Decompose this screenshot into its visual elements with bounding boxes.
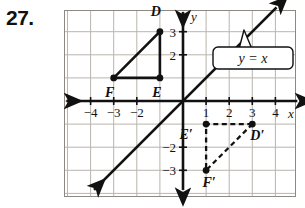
image-triangle-DEF-prime: D′E′F′	[178, 121, 264, 191]
vertex-label-F-prime: F′	[201, 175, 215, 190]
vertex-label-E: E	[151, 85, 161, 100]
vertex-label-E-prime: E′	[178, 127, 192, 142]
x-tick-label-3: 3	[249, 105, 256, 120]
coordinate-plane-figure: −4−3−2123432−2−3 xy DFE D′E′F′ y = x	[0, 0, 305, 208]
x-tick-label-1: 1	[203, 105, 210, 120]
vertex-point-F-prime	[203, 167, 210, 174]
vertex-point-D	[157, 28, 164, 35]
vertex-point-E-prime	[203, 121, 210, 128]
x-tick-label-2: 2	[226, 105, 233, 120]
x-tick-label-neg2: −2	[130, 105, 144, 120]
y-tick-label-2: 2	[170, 48, 177, 63]
preimage-triangle-DEF: DFE	[104, 4, 163, 100]
line-y-equals-x	[94, 7, 276, 189]
vertex-point-D-prime	[249, 121, 256, 128]
x-axis-label: x	[287, 106, 294, 121]
x-tick-label-neg4: −4	[84, 105, 98, 120]
vertex-label-D-prime: D′	[249, 128, 264, 143]
vertex-label-F: F	[104, 85, 115, 100]
y-tick-label-neg3: −3	[162, 163, 176, 178]
vertex-label-D: D	[150, 4, 161, 19]
equation-callout: y = x	[213, 30, 293, 69]
figure-stage: 27. −4−3−2123432−2−3 xy DFE D′E′F′ y = x	[0, 0, 305, 208]
x-tick-label-4: 4	[272, 105, 279, 120]
y-tick-label-3: 3	[170, 25, 177, 40]
axes	[66, 12, 297, 190]
line-equation-label: y = x	[237, 51, 269, 66]
y-axis-label: y	[189, 9, 197, 24]
y-tick-label-neg2: −2	[162, 140, 176, 155]
vertex-point-F	[110, 75, 117, 82]
coordinate-plane-svg: −4−3−2123432−2−3 xy DFE D′E′F′ y = x	[0, 0, 305, 208]
x-tick-label-neg3: −3	[107, 105, 121, 120]
vertex-point-E	[157, 75, 164, 82]
